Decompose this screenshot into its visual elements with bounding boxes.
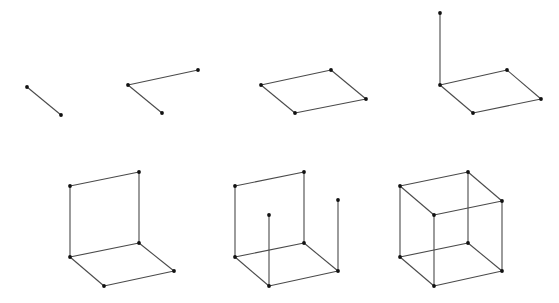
figure-step-1 <box>25 85 63 117</box>
vertex-dot <box>398 255 402 259</box>
edge-line <box>400 186 434 215</box>
figure-step-2 <box>126 68 200 115</box>
vertex-dot <box>364 97 368 101</box>
vertex-dot <box>500 269 504 273</box>
edge-line <box>70 172 139 186</box>
vertex-dot <box>233 255 237 259</box>
edge-line <box>440 85 473 113</box>
edge-line <box>331 70 366 99</box>
vertex-dot <box>432 284 436 288</box>
figure-step-4 <box>438 11 543 115</box>
vertex-dot <box>196 68 200 72</box>
edge-line <box>104 271 174 286</box>
vertex-dot <box>233 184 237 188</box>
vertex-dot <box>172 269 176 273</box>
edge-line <box>235 257 269 286</box>
vertex-dot <box>471 111 475 115</box>
vertex-dot <box>68 255 72 259</box>
vertex-dot <box>505 68 509 72</box>
vertex-dot <box>539 97 543 101</box>
figure-step-5 <box>68 170 176 288</box>
diagram-svg <box>0 0 559 303</box>
vertex-dot <box>302 170 306 174</box>
vertex-dot <box>25 85 29 89</box>
edge-line <box>400 257 434 286</box>
edge-line <box>468 172 502 201</box>
vertex-dot <box>336 198 340 202</box>
vertex-dot <box>500 199 504 203</box>
vertex-dot <box>293 111 297 115</box>
edge-line <box>295 99 366 113</box>
edge-line <box>507 70 541 99</box>
vertex-dot <box>267 284 271 288</box>
vertex-dot <box>137 170 141 174</box>
vertex-dot <box>329 68 333 72</box>
edge-line <box>128 85 162 113</box>
edge-line <box>473 99 541 113</box>
vertex-dot <box>466 241 470 245</box>
vertex-dot <box>160 111 164 115</box>
vertex-dot <box>102 284 106 288</box>
figure-step-7 <box>398 170 504 288</box>
vertex-dot <box>68 184 72 188</box>
edge-line <box>128 70 198 85</box>
vertex-dot <box>432 213 436 217</box>
edge-line <box>70 257 104 286</box>
edge-line <box>440 70 507 85</box>
vertex-dot <box>398 184 402 188</box>
vertex-dot <box>259 83 263 87</box>
vertex-dot <box>137 241 141 245</box>
vertex-dot <box>438 83 442 87</box>
edge-line <box>27 87 61 115</box>
vertex-dot <box>302 241 306 245</box>
edge-line <box>468 243 502 271</box>
edge-line <box>434 271 502 286</box>
figure-step-6 <box>233 170 340 288</box>
edge-line <box>400 172 468 186</box>
edge-line <box>261 85 295 113</box>
edge-line <box>235 172 304 186</box>
vertex-dot <box>438 11 442 15</box>
vertex-dot <box>59 113 63 117</box>
edge-line <box>139 243 174 271</box>
vertex-dot <box>336 269 340 273</box>
edge-line <box>70 243 139 257</box>
edge-line <box>304 243 338 271</box>
vertex-dot <box>267 213 271 217</box>
edge-line <box>269 271 338 286</box>
vertex-dot <box>126 83 130 87</box>
figure-step-3 <box>259 68 368 115</box>
edge-line <box>261 70 331 85</box>
cube-construction-diagram <box>0 0 559 303</box>
vertex-dot <box>466 170 470 174</box>
